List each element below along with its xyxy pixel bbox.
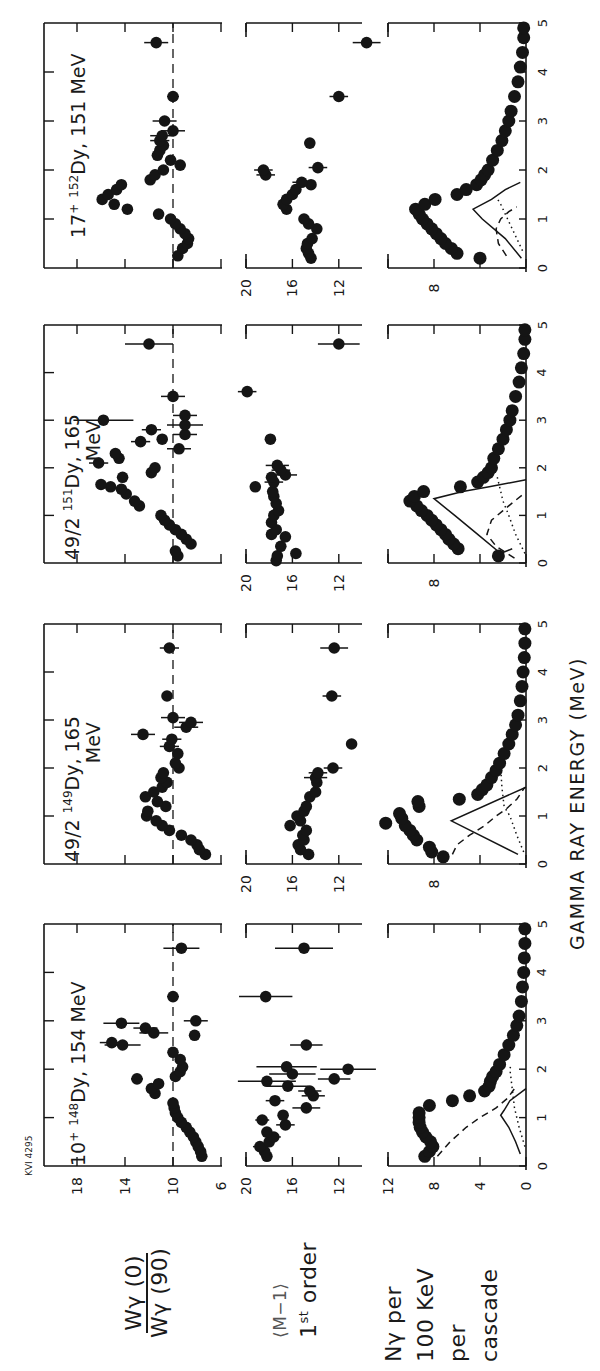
x-tick-label: 4 <box>535 68 550 76</box>
x-tick-label: 2 <box>535 166 550 174</box>
data-point <box>167 712 179 724</box>
x-tick-label: 5 <box>535 620 550 628</box>
data-point <box>513 376 526 389</box>
data-point <box>437 850 450 863</box>
data-point <box>135 436 147 448</box>
row-label-multiplicity: ⟨M−1⟩ 1st order <box>268 1242 321 1338</box>
data-point <box>304 1085 316 1097</box>
x-tick-label: 1 <box>535 215 550 223</box>
data-point <box>166 733 178 745</box>
data-point <box>167 125 179 137</box>
data-point <box>304 137 316 149</box>
data-point <box>417 485 430 498</box>
y-tick-label: 20 <box>238 574 254 592</box>
y-tick-label: 10 <box>165 1177 181 1195</box>
y-tick-label: 8 <box>426 1182 442 1191</box>
data-point <box>328 642 340 654</box>
data-point <box>312 162 324 174</box>
data-point <box>446 1094 459 1107</box>
data-point <box>298 213 310 225</box>
data-point <box>190 1015 202 1027</box>
data-point <box>423 841 436 854</box>
data-point <box>261 1126 273 1138</box>
data-point <box>265 433 277 445</box>
data-point <box>106 1037 118 1049</box>
x-tick-label: 3 <box>535 416 550 424</box>
data-point <box>474 252 487 265</box>
data-point <box>266 472 278 484</box>
data-point <box>517 666 530 679</box>
x-tick-label: 4 <box>535 968 550 976</box>
data-point <box>156 433 168 445</box>
data-point <box>327 762 339 774</box>
data-point <box>117 472 129 484</box>
figure-canvas: 1814106201612128400123452016128012345201… <box>0 0 600 1371</box>
data-point <box>108 199 120 211</box>
data-point <box>290 548 302 560</box>
data-point <box>149 462 161 474</box>
data-point <box>515 995 528 1008</box>
row-label-multiplicity-line1: ⟨M−1⟩ <box>268 1242 292 1338</box>
data-point <box>508 90 521 103</box>
x-tick-label: 5 <box>535 19 550 27</box>
data-point <box>153 1078 165 1090</box>
panel-title-152dy: 17+ 152Dy, 151 MeV <box>64 53 89 238</box>
data-point <box>518 937 531 950</box>
panel-148dy-counts: 12840012345 <box>380 920 550 1195</box>
y-tick-label: 16 <box>284 279 300 297</box>
panel-149dy-multiplicity: 201612 <box>238 624 362 893</box>
data-point <box>165 213 177 225</box>
y-tick-label: 20 <box>238 1177 254 1195</box>
data-point <box>517 347 530 360</box>
data-point <box>518 637 531 650</box>
data-point <box>116 179 128 191</box>
data-point <box>429 193 442 206</box>
x-tick-label: 1 <box>535 511 550 519</box>
data-point <box>333 338 345 350</box>
data-point <box>333 91 345 103</box>
x-tick-label: 3 <box>535 1017 550 1025</box>
data-point <box>176 942 188 954</box>
panel-title-149dy: 49/2 149Dy, 165 MeV <box>58 716 104 862</box>
data-point <box>110 448 122 460</box>
data-point <box>146 424 158 436</box>
y-tick-label: 6 <box>213 1181 229 1190</box>
x-tick-label: 1 <box>535 812 550 820</box>
x-tick-label: 2 <box>535 464 550 472</box>
data-point <box>170 545 182 557</box>
data-point <box>517 966 530 979</box>
data-point <box>277 1109 289 1121</box>
data-point <box>518 622 531 635</box>
x-tick-label: 3 <box>535 117 550 125</box>
data-point <box>301 825 313 837</box>
data-point <box>312 767 324 779</box>
data-point <box>282 1080 294 1092</box>
data-point <box>260 991 272 1003</box>
x-tick-label: 2 <box>535 764 550 772</box>
data-point <box>117 1039 129 1051</box>
data-point <box>463 1089 476 1102</box>
data-point <box>326 690 338 702</box>
data-point <box>105 481 117 493</box>
data-point <box>518 651 531 664</box>
data-point <box>518 922 531 935</box>
y-tick-label: 12 <box>331 279 347 297</box>
x-tick-label: 4 <box>535 668 550 676</box>
panel-151dy-multiplicity: 201612 <box>238 325 362 592</box>
data-point <box>453 793 466 806</box>
data-point <box>158 164 170 176</box>
data-point <box>131 1073 143 1085</box>
y-tick-label: 8 <box>426 880 442 889</box>
data-point <box>505 105 518 118</box>
x-tick-label: 0 <box>535 559 550 567</box>
data-point <box>258 164 270 176</box>
data-point <box>516 680 529 693</box>
data-point <box>153 208 165 220</box>
data-point <box>150 37 162 49</box>
panel-148dy-multiplicity: 201612 <box>238 924 376 1195</box>
data-point <box>164 642 176 654</box>
data-point <box>155 510 167 522</box>
y-tick-label: 12 <box>331 1177 347 1195</box>
x-tick-label: 0 <box>535 264 550 272</box>
model-curve-solid <box>473 182 521 258</box>
